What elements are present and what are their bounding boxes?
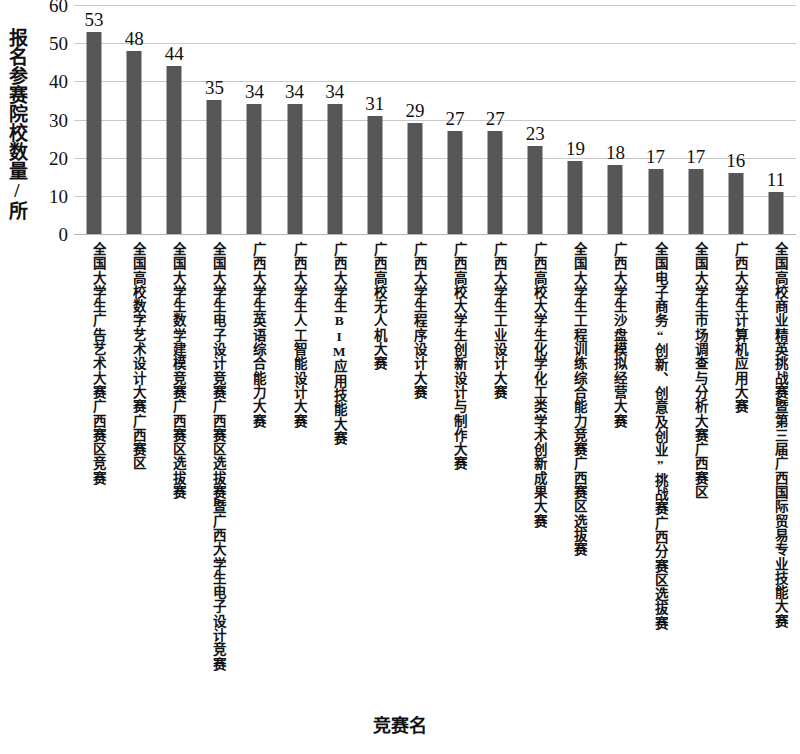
bar-value-label: 17 [686,147,705,166]
bar[interactable] [488,131,503,234]
bar[interactable] [608,165,623,234]
bar-value-label: 18 [606,143,625,162]
x-axis-category-label: 全国高校商业精英挑战赛暨第三届广西国际贸易专业技能大赛 [764,242,788,628]
bar-value-label: 16 [726,151,745,170]
x-axis-category-label: 广西高校无人机大赛 [363,242,387,371]
x-axis-label-slot: 广西大学生程序设计大赛 [395,238,435,698]
bar-value-label: 27 [486,109,505,128]
bar-slot: 44 [154,5,194,234]
bar-slot: 17 [636,5,676,234]
x-axis-label-slot: 广西高校大学生化学化工类学术创新成果大赛 [515,238,555,698]
bar[interactable] [247,104,262,234]
x-axis-category-label: 广西大学生BIM应用技能大赛 [323,242,347,445]
bar-slot: 48 [114,5,154,234]
x-axis-label-slot: 全国高校数字艺术设计大赛广西赛区 [114,238,154,698]
y-axis-tick-30: 30 [49,110,68,129]
bar[interactable] [327,104,342,234]
y-axis-title: 报名参赛院校数量/所 [2,8,32,240]
x-axis-label-slot: 广西大学生沙盘模拟经营大赛 [595,238,635,698]
bar[interactable] [728,173,743,234]
bar[interactable] [568,161,583,234]
x-axis-category-label: 广西大学生沙盘模拟经营大赛 [603,242,627,428]
bar-chart: 报名参赛院校数量/所 0102030405060 534844353434343… [0,0,800,754]
bar-value-label: 19 [566,139,585,158]
y-axis-tick-50: 50 [49,34,68,53]
y-axis-tick-20: 20 [49,148,68,167]
x-axis-category-label: 广西大学生英语综合能力大赛 [242,242,266,428]
x-axis-category-label: 全国大学生广告艺术大赛广西赛区竞赛 [82,242,106,485]
bar[interactable] [287,104,302,234]
bar[interactable] [768,192,783,234]
x-axis-category-label: 全国高校数字艺术设计大赛广西赛区 [122,242,146,471]
x-axis-category-label: 全国电子商务“创新、创意及创业”挑战赛广西分赛区选拔赛 [644,242,668,630]
x-axis-label-slot: 广西大学生人工智能设计大赛 [275,238,315,698]
bar-slot: 35 [194,5,234,234]
bar[interactable] [87,32,102,234]
bar-slot: 31 [355,5,395,234]
x-axis-label-slot: 广西大学生工业设计大赛 [475,238,515,698]
x-axis-category-label: 广西大学生人工智能设计大赛 [283,242,307,428]
bar-slot: 23 [515,5,555,234]
bar-value-label: 34 [325,82,344,101]
bar[interactable] [367,116,382,234]
bar-value-label: 23 [526,124,545,143]
bar-value-label: 34 [285,82,304,101]
bar[interactable] [688,169,703,234]
x-axis-category-labels: 全国大学生广告艺术大赛广西赛区竞赛全国高校数字艺术设计大赛广西赛区全国大学生数学… [74,238,796,698]
x-axis-label-slot: 全国电子商务“创新、创意及创业”挑战赛广西分赛区选拔赛 [636,238,676,698]
bar-slot: 27 [435,5,475,234]
y-axis-tick-60: 60 [49,0,68,15]
bar[interactable] [127,51,142,234]
bar-value-label: 17 [646,147,665,166]
bar[interactable] [207,100,222,234]
x-axis-category-label: 全国大学生工程训练综合能力竞赛广西赛区选拔赛 [563,242,587,557]
bar[interactable] [448,131,463,234]
bar-value-label: 35 [205,78,224,97]
x-axis-label-slot: 广西大学生BIM应用技能大赛 [315,238,355,698]
x-axis-label-slot: 广西大学生计算机应用大赛 [716,238,756,698]
x-axis-label-slot: 广西大学生英语综合能力大赛 [234,238,274,698]
x-axis-label-slot: 全国大学生市场调查与分析大赛广西赛区 [676,238,716,698]
bar-slot: 11 [756,5,796,234]
x-axis-label-slot: 全国高校商业精英挑战赛暨第三届广西国际贸易专业技能大赛 [756,238,796,698]
bar-slot: 16 [716,5,756,234]
axis-baseline [74,234,796,235]
bar-slot: 17 [676,5,716,234]
bar-value-label: 34 [245,82,264,101]
x-axis-label-slot: 全国大学生广告艺术大赛广西赛区竞赛 [74,238,114,698]
bar-slot: 19 [555,5,595,234]
x-axis-label-slot: 全国大学生工程训练综合能力竞赛广西赛区选拔赛 [555,238,595,698]
y-axis-tick-10: 10 [49,186,68,205]
x-axis-category-label: 广西大学生程序设计大赛 [403,242,427,399]
bar-slot: 18 [595,5,635,234]
x-axis-category-label: 广西大学生计算机应用大赛 [724,242,748,414]
bar[interactable] [167,66,182,234]
bars-layer: 534844353434343129272723191817171611 [74,5,796,234]
x-axis-label-slot: 广西高校无人机大赛 [355,238,395,698]
x-axis-category-label: 全国大学生数学建模竞赛广西赛区选拔赛 [162,242,186,499]
bar-slot: 53 [74,5,114,234]
bar-value-label: 27 [446,109,465,128]
bar[interactable] [528,146,543,234]
y-axis-tick-labels: 0102030405060 [30,0,72,240]
x-axis-label-slot: 全国大学生电子设计竞赛广西赛区选拔赛暨广西大学生电子设计竞赛 [194,238,234,698]
bar-value-label: 48 [125,29,144,48]
bar-slot: 34 [275,5,315,234]
bar[interactable] [648,169,663,234]
x-axis-category-label: 广西大学生工业设计大赛 [483,242,507,399]
y-axis-tick-0: 0 [59,225,69,244]
x-axis-category-label: 广西高校大学生创新设计与制作大赛 [443,242,467,471]
x-axis-category-label: 全国大学生市场调查与分析大赛广西赛区 [684,242,708,499]
bar-value-label: 29 [405,101,424,120]
bar-slot: 34 [234,5,274,234]
bar-value-label: 53 [85,10,104,29]
bar-value-label: 31 [365,94,384,113]
x-axis-category-label: 全国大学生电子设计竞赛广西赛区选拔赛暨广西大学生电子设计竞赛 [202,242,226,671]
x-axis-label-slot: 广西高校大学生创新设计与制作大赛 [435,238,475,698]
x-axis-title: 竞赛名 [0,716,800,736]
bar[interactable] [407,123,422,234]
x-axis-category-label: 广西高校大学生化学化工类学术创新成果大赛 [523,242,547,528]
bar-slot: 34 [315,5,355,234]
bar-value-label: 11 [767,170,785,189]
bar-value-label: 44 [165,44,184,63]
